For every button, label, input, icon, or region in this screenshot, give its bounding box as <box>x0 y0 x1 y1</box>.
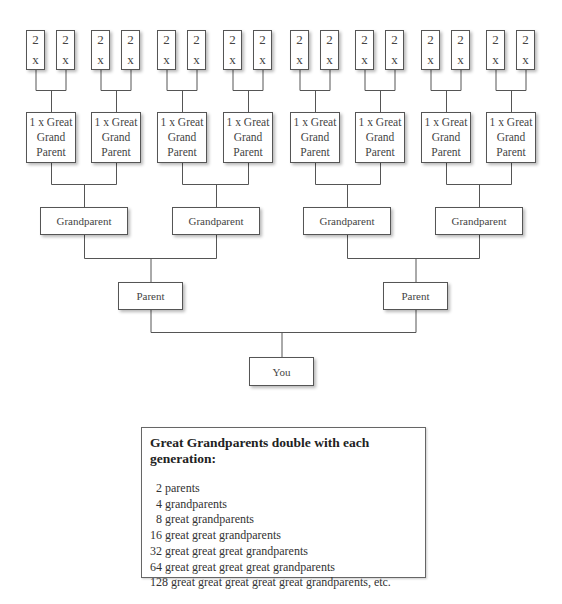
ancestor-box: 2x <box>26 30 45 70</box>
ancestor-multiplier: x <box>163 50 170 70</box>
ancestor-count: 2 <box>163 30 170 50</box>
ancestor-box: 2x <box>253 30 272 70</box>
parent-label: Parent <box>136 290 164 302</box>
ancestor-box: 2x <box>121 30 140 70</box>
ggp-line: Grand <box>497 130 526 145</box>
ancestor-multiplier: x <box>259 50 266 70</box>
great-grandparent-box: 1 x GreatGrandParent <box>355 112 405 163</box>
ggp-line: Grand <box>432 130 461 145</box>
ggp-line: Grand <box>37 130 66 145</box>
grandparent-box: Grandparent <box>435 207 523 235</box>
list-item: 4 grandparents <box>150 497 417 513</box>
ggp-line: Parent <box>365 145 394 160</box>
parent-box: Parent <box>383 282 448 310</box>
ggp-line: Parent <box>233 145 262 160</box>
ancestor-count: 2 <box>457 30 464 50</box>
ancestor-box: 2x <box>385 30 404 70</box>
ancestor-count: 2 <box>361 30 368 50</box>
ggp-line: Grand <box>301 130 330 145</box>
ggp-line: 1 x Great <box>161 115 204 130</box>
ggp-line: Grand <box>168 130 197 145</box>
ggp-line: Parent <box>36 145 65 160</box>
list-item: 16 great great grandparents <box>150 528 417 544</box>
ancestor-box: 2x <box>187 30 206 70</box>
ancestor-count: 2 <box>296 30 303 50</box>
ancestor-count: 2 <box>97 30 104 50</box>
great-grandparent-box: 1 x GreatGrandParent <box>486 112 536 163</box>
ancestor-box: 2x <box>516 30 535 70</box>
ggp-line: 1 x Great <box>359 115 402 130</box>
ancestor-multiplier: x <box>492 50 499 70</box>
grandparent-label: Grandparent <box>57 215 112 227</box>
grandparent-label: Grandparent <box>320 215 375 227</box>
ggp-line: 1 x Great <box>95 115 138 130</box>
parent-box: Parent <box>118 282 183 310</box>
ancestor-multiplier: x <box>427 50 434 70</box>
ancestor-multiplier: x <box>62 50 69 70</box>
you-label: You <box>273 366 291 378</box>
ancestor-multiplier: x <box>522 50 529 70</box>
ancestor-box: 2x <box>157 30 176 70</box>
ancestor-count: 2 <box>32 30 39 50</box>
grandparent-box: Grandparent <box>172 207 260 235</box>
ancestor-count: 2 <box>427 30 434 50</box>
ggp-line: 1 x Great <box>227 115 270 130</box>
list-item: 2 parents <box>150 481 417 497</box>
ggp-line: Grand <box>234 130 263 145</box>
ggp-line: Parent <box>431 145 460 160</box>
ancestor-multiplier: x <box>97 50 104 70</box>
ggp-line: 1 x Great <box>30 115 73 130</box>
ancestor-box: 2x <box>320 30 339 70</box>
ancestor-count: 2 <box>62 30 69 50</box>
generation-list: 2 parents 4 grandparents 8 great grandpa… <box>150 481 417 591</box>
parent-label: Parent <box>401 290 429 302</box>
great-grandparent-box: 1 x GreatGrandParent <box>26 112 76 163</box>
ancestor-box: 2x <box>91 30 110 70</box>
grandparent-label: Grandparent <box>452 215 507 227</box>
ggp-line: Grand <box>102 130 131 145</box>
grandparent-box: Grandparent <box>303 207 391 235</box>
ancestor-multiplier: x <box>229 50 236 70</box>
ggp-line: Grand <box>366 130 395 145</box>
grandparent-label: Grandparent <box>189 215 244 227</box>
ancestor-count: 2 <box>492 30 499 50</box>
ancestor-box: 2x <box>486 30 505 70</box>
great-grandparent-box: 1 x GreatGrandParent <box>290 112 340 163</box>
ancestor-count: 2 <box>391 30 398 50</box>
list-item: 128 great great great great great grandp… <box>150 575 417 591</box>
ancestor-box: 2x <box>223 30 242 70</box>
ggp-line: Parent <box>167 145 196 160</box>
ggp-line: 1 x Great <box>294 115 337 130</box>
ancestor-multiplier: x <box>32 50 39 70</box>
ancestor-box: 2x <box>355 30 374 70</box>
ancestor-count: 2 <box>259 30 266 50</box>
grandparent-box: Grandparent <box>40 207 128 235</box>
ancestor-multiplier: x <box>326 50 333 70</box>
ancestor-box: 2x <box>290 30 309 70</box>
great-grandparent-box: 1 x GreatGrandParent <box>91 112 141 163</box>
ancestor-multiplier: x <box>296 50 303 70</box>
great-grandparent-box: 1 x GreatGrandParent <box>421 112 471 163</box>
ggp-line: Parent <box>101 145 130 160</box>
list-item: 32 great great great grandparents <box>150 544 417 560</box>
ggp-line: 1 x Great <box>490 115 533 130</box>
ancestor-multiplier: x <box>193 50 200 70</box>
ggp-line: 1 x Great <box>425 115 468 130</box>
ancestor-multiplier: x <box>457 50 464 70</box>
ancestor-box: 2x <box>56 30 75 70</box>
ancestor-multiplier: x <box>391 50 398 70</box>
ancestor-multiplier: x <box>127 50 134 70</box>
info-title: Great Grandparents double with each gene… <box>150 435 417 467</box>
great-grandparent-box: 1 x GreatGrandParent <box>223 112 273 163</box>
ggp-line: Parent <box>496 145 525 160</box>
ancestor-box: 2x <box>421 30 440 70</box>
ancestor-count: 2 <box>193 30 200 50</box>
ancestor-multiplier: x <box>361 50 368 70</box>
ancestor-count: 2 <box>127 30 134 50</box>
ancestor-count: 2 <box>229 30 236 50</box>
ancestor-count: 2 <box>522 30 529 50</box>
ggp-line: Parent <box>300 145 329 160</box>
ancestor-box: 2x <box>451 30 470 70</box>
ancestor-count: 2 <box>326 30 333 50</box>
info-box: Great Grandparents double with each gene… <box>141 427 426 578</box>
